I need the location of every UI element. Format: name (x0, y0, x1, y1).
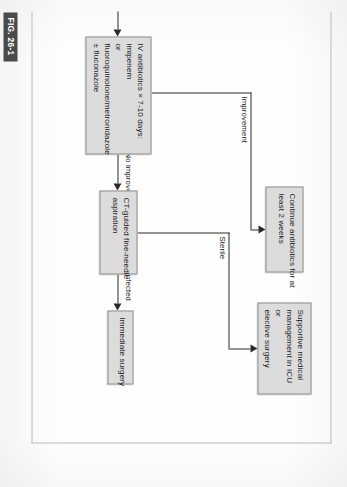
node-immediate-surgery[interactable]: Immediate surgery (107, 310, 133, 384)
edge-sterile-riser (228, 348, 250, 349)
edge-label-improvement: Improvement (239, 96, 248, 143)
figure-number-badge: FIG. 26-1 (3, 12, 17, 61)
edge-sterile-arrowhead (250, 344, 257, 352)
node-line: management in ICU (283, 309, 294, 387)
node-line: imipenem (123, 43, 134, 147)
node-line: Immediate surgery (116, 317, 127, 377)
edge-infected-line (117, 274, 118, 303)
node-supportive-management[interactable]: Supportive medical management in ICU or … (257, 302, 311, 394)
node-line: IV antibiotics × 7-10 days: (134, 43, 145, 147)
node-line: elective surgery (261, 309, 272, 387)
node-iv-antibiotics[interactable]: IV antibiotics × 7-10 days: imipenem or … (85, 36, 151, 154)
node-line: ± fluconazole (90, 43, 101, 147)
edge-improvement-riser (250, 229, 258, 230)
node-continue-antibiotics[interactable]: Continue antibiotics for at least 2 week… (265, 186, 303, 272)
node-line: or (272, 309, 283, 387)
node-line: Continue antibiotics for at (286, 193, 297, 265)
node-line: CT-guided fine-needle (120, 197, 131, 267)
edge-improvement-elbow (250, 92, 251, 229)
edge-improvement-arrowhead (258, 225, 265, 233)
node-line: least 2 weeks (275, 193, 286, 265)
edge-infected-arrowhead (114, 303, 122, 310)
figure-stage: No improvement Improvement Infected Ster… (0, 0, 347, 487)
edge-entry-line (117, 11, 118, 29)
node-line: Supportive medical (294, 309, 305, 387)
edge-improvement-line (151, 92, 251, 93)
node-ct-guided-fna[interactable]: CT-guided fine-needle aspiration (99, 190, 137, 274)
edge-noimprovement-line (117, 154, 118, 183)
edge-sterile-line (137, 232, 229, 233)
node-line: fluoroquinolone/metronidazole (101, 43, 112, 147)
edge-label-sterile: Sterile (217, 236, 226, 259)
figure-caption-block: FIG. 26-1 Management of acute pancreatit… (0, 12, 21, 436)
edge-noimprovement-arrowhead (114, 183, 122, 190)
edge-entry-arrowhead (114, 29, 122, 36)
node-line: aspiration (109, 197, 120, 267)
node-line: or (112, 43, 123, 147)
edge-sterile-elbow (228, 232, 229, 348)
